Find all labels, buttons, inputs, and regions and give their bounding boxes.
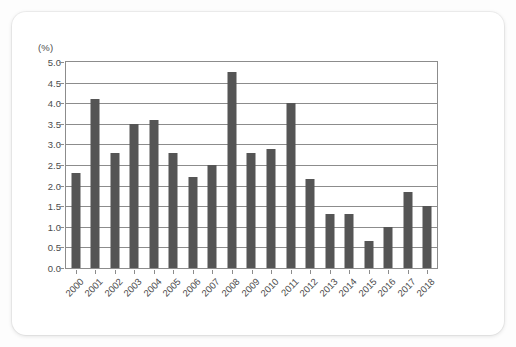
bar-slot — [66, 62, 86, 268]
x-axis-tick-mark — [310, 270, 311, 274]
bar-slot — [417, 62, 437, 268]
x-axis-tick-mark — [173, 270, 174, 274]
y-axis-tick-mark — [59, 144, 64, 145]
bar[interactable] — [169, 153, 178, 268]
y-axis-tick-mark — [59, 62, 64, 63]
bar-slot — [398, 62, 418, 268]
bar-slot — [281, 62, 301, 268]
bar[interactable] — [403, 192, 412, 268]
bar[interactable] — [208, 165, 217, 268]
bar[interactable] — [110, 153, 119, 268]
x-axis-tick-mark — [154, 270, 155, 274]
y-axis-tick-mark — [59, 227, 64, 228]
bar-slot — [222, 62, 242, 268]
bar-slot — [242, 62, 262, 268]
bar-slot — [378, 62, 398, 268]
x-axis-tick-mark — [349, 270, 350, 274]
bar[interactable] — [130, 124, 139, 268]
bar-slot — [320, 62, 340, 268]
bar[interactable] — [306, 179, 315, 268]
bar[interactable] — [227, 72, 236, 268]
bar-slot — [359, 62, 379, 268]
bar[interactable] — [384, 227, 393, 268]
bar-slot — [203, 62, 223, 268]
y-axis-tick-marks — [12, 61, 72, 269]
bar[interactable] — [286, 103, 295, 268]
bar[interactable] — [247, 153, 256, 268]
chart-card: (%) 5.04.54.03.53.02.52.01.51.00.50.0 20… — [12, 12, 504, 335]
bar[interactable] — [188, 177, 197, 268]
bar-slot — [339, 62, 359, 268]
bar-slot — [183, 62, 203, 268]
y-axis-tick-mark — [59, 247, 64, 248]
x-axis-tick-mark — [271, 270, 272, 274]
bar[interactable] — [423, 206, 432, 268]
y-axis-tick-mark — [59, 206, 64, 207]
bar[interactable] — [345, 214, 354, 268]
bar-slot — [105, 62, 125, 268]
bar-slot — [164, 62, 184, 268]
bar[interactable] — [91, 99, 100, 268]
x-axis-tick-mark — [408, 270, 409, 274]
x-axis-tick-mark — [369, 270, 370, 274]
x-axis-tick-mark — [76, 270, 77, 274]
x-axis-tick-mark — [95, 270, 96, 274]
bar-slot — [261, 62, 281, 268]
y-axis-tick-mark — [59, 186, 64, 187]
x-axis-tick-mark — [232, 270, 233, 274]
x-axis-tick-mark — [291, 270, 292, 274]
x-axis-tick-mark — [388, 270, 389, 274]
screenshot-root: (%) 5.04.54.03.53.02.52.01.51.00.50.0 20… — [0, 0, 516, 347]
y-axis-tick-mark — [59, 268, 64, 269]
bar-slot — [300, 62, 320, 268]
x-axis-tick-mark — [134, 270, 135, 274]
x-axis-tick-mark — [212, 270, 213, 274]
bar-series — [66, 62, 437, 268]
x-axis-tick-mark — [427, 270, 428, 274]
y-axis-tick-mark — [59, 103, 64, 104]
bar[interactable] — [71, 173, 80, 268]
x-axis-tick-labels: 2000200120022003200420052006200720082009… — [66, 270, 437, 330]
y-axis-tick-mark — [59, 165, 64, 166]
bar-chart: (%) 5.04.54.03.53.02.52.01.51.00.50.0 20… — [12, 12, 504, 335]
y-axis-unit-label: (%) — [38, 42, 53, 53]
bar[interactable] — [149, 120, 158, 268]
bar-slot — [86, 62, 106, 268]
y-axis-tick-mark — [59, 124, 64, 125]
y-axis-tick-mark — [59, 83, 64, 84]
bar[interactable] — [267, 149, 276, 269]
x-axis-tick-mark — [115, 270, 116, 274]
bar[interactable] — [325, 214, 334, 268]
x-axis-tick-mark — [252, 270, 253, 274]
x-axis-tick-mark — [330, 270, 331, 274]
bar-slot — [144, 62, 164, 268]
bar[interactable] — [364, 241, 373, 268]
bar-slot — [125, 62, 145, 268]
x-axis-tick-mark — [193, 270, 194, 274]
